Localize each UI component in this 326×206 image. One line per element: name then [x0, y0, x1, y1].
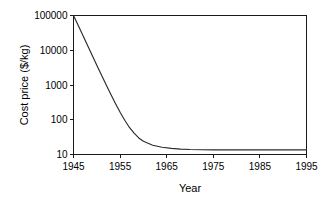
y-tick-label: 100 — [51, 114, 68, 125]
x-tick-label: 1965 — [156, 161, 179, 172]
y-axis-title: Cost price ($/kg) — [18, 45, 30, 126]
y-axis-tick-labels: 10100100010000100000 — [34, 10, 68, 160]
plot-frame — [74, 16, 307, 155]
cost-price-line-chart: 10100100010000100000 1945195519651975198… — [0, 0, 326, 206]
x-tick-label: 1995 — [295, 161, 318, 172]
x-tick-label: 1985 — [249, 161, 272, 172]
figure-container: 10100100010000100000 1945195519651975198… — [0, 0, 326, 206]
data-series-cost-price — [74, 16, 307, 150]
y-axis-ticks — [70, 16, 74, 155]
x-tick-label: 1945 — [62, 161, 85, 172]
y-tick-label: 10 — [56, 149, 68, 160]
y-tick-label: 1000 — [45, 80, 68, 91]
x-tick-label: 1975 — [202, 161, 225, 172]
x-axis-title: Year — [179, 182, 202, 194]
x-axis-tick-labels: 194519551965197519851995 — [62, 161, 318, 172]
x-axis-ticks — [74, 155, 307, 159]
x-tick-label: 1955 — [109, 161, 132, 172]
y-tick-label: 100000 — [34, 10, 68, 21]
y-tick-label: 10000 — [40, 45, 68, 56]
